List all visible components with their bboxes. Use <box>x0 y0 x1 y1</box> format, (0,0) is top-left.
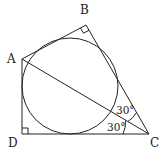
inscribed-circle <box>22 38 118 134</box>
diagonal-ac <box>22 59 149 134</box>
label-d: D <box>8 136 18 147</box>
label-b: B <box>80 3 89 17</box>
geometry-diagram: B A D C 30° 30° <box>0 0 165 147</box>
label-c: C <box>150 136 159 147</box>
angle-label-upper: 30° <box>116 104 135 116</box>
side-ab <box>22 25 86 59</box>
right-angle-marker-d <box>22 128 28 134</box>
angle-label-lower: 30° <box>107 121 126 133</box>
label-a: A <box>6 52 16 66</box>
